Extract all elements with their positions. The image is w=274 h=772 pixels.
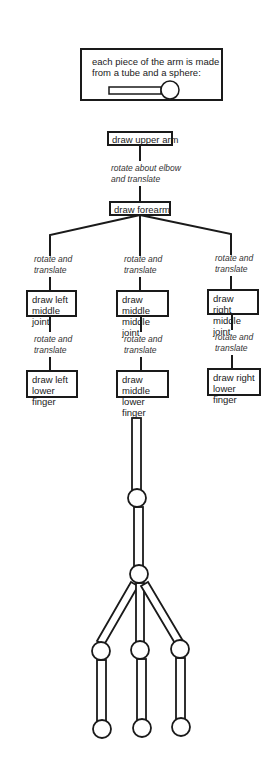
upper-arm-tube [132, 418, 141, 490]
left-lower-finger-tube [97, 660, 106, 721]
forearm-tube [134, 507, 143, 567]
left-finger-upper-tube [97, 582, 138, 645]
middle-lower-finger-tube [137, 659, 146, 720]
right-finger-tip-sphere [172, 718, 190, 736]
wrist-sphere [130, 565, 148, 583]
right-lower-finger-tube [176, 658, 185, 719]
middle-finger-upper-tube [136, 583, 144, 642]
middle-middle-joint-sphere [131, 641, 149, 659]
middle-finger-tip-sphere [133, 719, 151, 737]
left-finger-tip-sphere [93, 720, 111, 738]
arm-illustration [0, 0, 274, 772]
elbow-sphere [128, 489, 146, 507]
right-middle-joint-sphere [171, 640, 189, 658]
left-middle-joint-sphere [92, 642, 110, 660]
right-finger-upper-tube [141, 582, 183, 645]
